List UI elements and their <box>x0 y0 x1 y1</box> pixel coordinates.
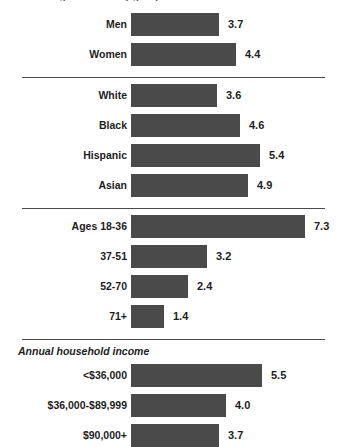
bar-row-label: $36,000-$89,999 <box>48 393 127 417</box>
bar-row-label: Black <box>99 113 127 137</box>
bar-row-label: Women <box>89 42 127 66</box>
bar <box>131 394 226 417</box>
bar-row-label: Hispanic <box>83 143 127 167</box>
bar-value-label: 5.5 <box>271 363 286 387</box>
bar <box>131 215 305 238</box>
bar-value-label: 2.4 <box>197 274 212 298</box>
bar-row-label: 52-70 <box>100 274 127 298</box>
bar <box>131 13 219 36</box>
group-caption: Annual household income <box>18 345 149 357</box>
bar-value-label: 7.3 <box>314 214 329 238</box>
bar-row-label: <$36,000 <box>83 363 127 387</box>
bar-row: 37-513.2 <box>0 244 340 268</box>
clipped-header-text: Percentage of adults by group <box>18 0 162 1</box>
bar-value-label: 4.4 <box>245 42 260 66</box>
bar-row: Men3.7 <box>0 12 340 36</box>
bar-value-label: 1.4 <box>173 304 188 328</box>
bar-row: 52-702.4 <box>0 274 340 298</box>
bar <box>131 174 248 197</box>
bar-row: Hispanic5.4 <box>0 143 340 167</box>
bar-value-label: 3.2 <box>216 244 231 268</box>
bar <box>131 43 236 66</box>
bar-value-label: 3.6 <box>226 83 241 107</box>
bar-row-label: 37-51 <box>100 244 127 268</box>
bar-value-label: 4.0 <box>235 393 250 417</box>
bar <box>131 424 219 447</box>
bar-row: White3.6 <box>0 83 340 107</box>
bar-row-label: Men <box>106 12 127 36</box>
bar-row: 71+1.4 <box>0 304 340 328</box>
bar <box>131 84 217 107</box>
bar-row: Ages 18-367.3 <box>0 214 340 238</box>
bar-row-label: White <box>98 83 127 107</box>
bar-row-label: Asian <box>98 173 127 197</box>
bar-row: Asian4.9 <box>0 173 340 197</box>
bar-row: $90,000+3.7 <box>0 423 340 447</box>
bar-value-label: 4.9 <box>257 173 272 197</box>
bar <box>131 364 262 387</box>
bar-row-label: $90,000+ <box>83 423 127 447</box>
bar-value-label: 3.7 <box>228 423 243 447</box>
group-separator <box>22 339 325 340</box>
bar-row: Black4.6 <box>0 113 340 137</box>
bar <box>131 245 207 268</box>
bar-row: $36,000-$89,9994.0 <box>0 393 340 417</box>
bar <box>131 144 260 167</box>
bar <box>131 275 188 298</box>
bar-value-label: 5.4 <box>269 143 284 167</box>
bar-row-label: Ages 18-36 <box>72 214 127 238</box>
bar-value-label: 4.6 <box>249 113 264 137</box>
bar-row: <$36,0005.5 <box>0 363 340 387</box>
bar <box>131 114 240 137</box>
bar-value-label: 3.7 <box>228 12 243 36</box>
group-separator <box>22 77 325 78</box>
bar-row-label: 71+ <box>109 304 127 328</box>
bar <box>131 305 164 328</box>
group-separator <box>22 208 325 209</box>
bar-row: Women4.4 <box>0 42 340 66</box>
